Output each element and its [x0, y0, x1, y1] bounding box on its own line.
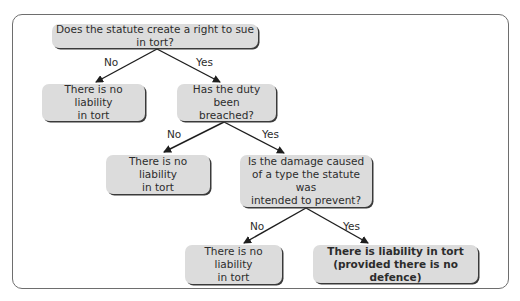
node-q1-no-liability: There is no liability in tort [42, 84, 145, 121]
node-q3-no-liability: There is no liability in tort [185, 245, 282, 284]
node-q3-damage-type: Is the damage caused of a type the statu… [240, 155, 372, 207]
node-q2-no-liability: There is no liability in tort [106, 155, 210, 194]
edge-label-q3-no: No [250, 220, 264, 232]
edge-label-q1-yes: Yes [196, 56, 213, 68]
node-q2-duty-breached: Has the duty been breached? [177, 84, 276, 121]
node-q3-liability-in-tort: There is liability in tort (provided the… [313, 245, 478, 283]
node-q1-right-to-sue: Does the statute create a right to sue i… [52, 24, 258, 48]
edge-label-q1-no: No [104, 56, 118, 68]
edge-label-q3-yes: Yes [343, 220, 360, 232]
edge-label-q2-yes: Yes [262, 128, 279, 140]
edge-label-q2-no: No [167, 128, 181, 140]
